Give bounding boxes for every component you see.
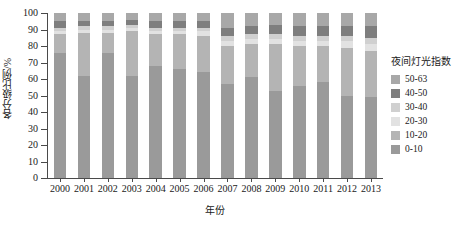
legend-item[interactable]: 20-30: [391, 114, 461, 128]
bar-group[interactable]: [317, 13, 330, 178]
bar-segment[interactable]: [173, 21, 186, 28]
stacked-bar[interactable]: [317, 13, 330, 178]
bar-group[interactable]: [221, 13, 234, 178]
bar-segment[interactable]: [341, 41, 354, 48]
bar-segment[interactable]: [126, 20, 139, 25]
bar-segment[interactable]: [245, 26, 258, 34]
bar-segment[interactable]: [173, 69, 186, 178]
bar-segment[interactable]: [341, 36, 354, 41]
bar-segment[interactable]: [197, 28, 210, 31]
stacked-bar[interactable]: [197, 13, 210, 178]
stacked-bar[interactable]: [54, 13, 67, 178]
bar-group[interactable]: [269, 13, 282, 178]
bar-segment[interactable]: [54, 21, 67, 28]
bar-segment[interactable]: [341, 26, 354, 36]
stacked-bar[interactable]: [149, 13, 162, 178]
bar-segment[interactable]: [126, 31, 139, 76]
stacked-bar[interactable]: [245, 13, 258, 178]
legend-item[interactable]: 40-50: [391, 86, 461, 100]
bar-segment[interactable]: [78, 30, 91, 33]
bar-segment[interactable]: [293, 86, 306, 178]
bar-segment[interactable]: [54, 28, 67, 31]
bar-segment[interactable]: [245, 13, 258, 26]
bar-segment[interactable]: [102, 13, 115, 21]
bar-segment[interactable]: [341, 96, 354, 179]
bar-segment[interactable]: [102, 26, 115, 29]
bar-segment[interactable]: [173, 31, 186, 34]
bar-segment[interactable]: [365, 51, 378, 97]
bar-segment[interactable]: [269, 44, 282, 90]
bar-segment[interactable]: [78, 13, 91, 21]
bar-segment[interactable]: [149, 28, 162, 31]
stacked-bar[interactable]: [78, 13, 91, 178]
bar-segment[interactable]: [126, 28, 139, 31]
bar-segment[interactable]: [317, 36, 330, 41]
bar-group[interactable]: [365, 13, 378, 178]
bar-segment[interactable]: [126, 13, 139, 20]
bar-segment[interactable]: [317, 82, 330, 178]
bar-group[interactable]: [341, 13, 354, 178]
bar-segment[interactable]: [269, 39, 282, 44]
stacked-bar[interactable]: [102, 13, 115, 178]
bar-segment[interactable]: [102, 21, 115, 26]
bar-group[interactable]: [245, 13, 258, 178]
bar-segment[interactable]: [54, 34, 67, 52]
bar-segment[interactable]: [293, 46, 306, 86]
stacked-bar[interactable]: [126, 13, 139, 178]
legend-item[interactable]: 0-10: [391, 142, 461, 156]
bar-segment[interactable]: [173, 28, 186, 31]
bar-segment[interactable]: [149, 31, 162, 34]
bar-segment[interactable]: [197, 13, 210, 21]
stacked-bar[interactable]: [173, 13, 186, 178]
bar-segment[interactable]: [149, 21, 162, 28]
bar-segment[interactable]: [269, 25, 282, 35]
bar-segment[interactable]: [317, 13, 330, 26]
bar-group[interactable]: [173, 13, 186, 178]
bar-group[interactable]: [102, 13, 115, 178]
bar-segment[interactable]: [197, 21, 210, 28]
stacked-bar[interactable]: [221, 13, 234, 178]
bar-segment[interactable]: [317, 46, 330, 82]
bar-segment[interactable]: [293, 41, 306, 46]
bar-segment[interactable]: [78, 26, 91, 29]
bar-segment[interactable]: [341, 48, 354, 96]
bar-segment[interactable]: [269, 13, 282, 25]
bar-segment[interactable]: [293, 13, 306, 26]
bar-segment[interactable]: [245, 77, 258, 178]
bar-segment[interactable]: [197, 31, 210, 36]
bar-segment[interactable]: [365, 97, 378, 178]
bar-segment[interactable]: [102, 53, 115, 178]
bar-segment[interactable]: [78, 21, 91, 26]
bar-segment[interactable]: [221, 46, 234, 84]
bar-segment[interactable]: [245, 39, 258, 44]
bar-segment[interactable]: [317, 26, 330, 36]
stacked-bar[interactable]: [341, 13, 354, 178]
stacked-bar[interactable]: [269, 13, 282, 178]
legend-item[interactable]: 30-40: [391, 100, 461, 114]
bar-segment[interactable]: [317, 41, 330, 46]
bar-segment[interactable]: [197, 72, 210, 178]
stacked-bar[interactable]: [293, 13, 306, 178]
legend-item[interactable]: 50-63: [391, 72, 461, 86]
bar-group[interactable]: [126, 13, 139, 178]
bar-segment[interactable]: [149, 13, 162, 21]
bar-group[interactable]: [54, 13, 67, 178]
bar-group[interactable]: [197, 13, 210, 178]
bar-segment[interactable]: [293, 26, 306, 36]
bar-group[interactable]: [293, 13, 306, 178]
bar-segment[interactable]: [197, 36, 210, 72]
legend-item[interactable]: 10-20: [391, 128, 461, 142]
bar-segment[interactable]: [78, 33, 91, 76]
bar-segment[interactable]: [293, 36, 306, 41]
bar-segment[interactable]: [149, 66, 162, 178]
bar-segment[interactable]: [365, 44, 378, 51]
bar-segment[interactable]: [102, 33, 115, 53]
bar-segment[interactable]: [365, 38, 378, 45]
bar-segment[interactable]: [173, 13, 186, 21]
stacked-bar[interactable]: [365, 13, 378, 178]
bar-segment[interactable]: [365, 26, 378, 38]
bar-segment[interactable]: [78, 76, 91, 178]
bar-segment[interactable]: [221, 41, 234, 46]
bar-segment[interactable]: [126, 25, 139, 28]
bar-segment[interactable]: [126, 76, 139, 178]
